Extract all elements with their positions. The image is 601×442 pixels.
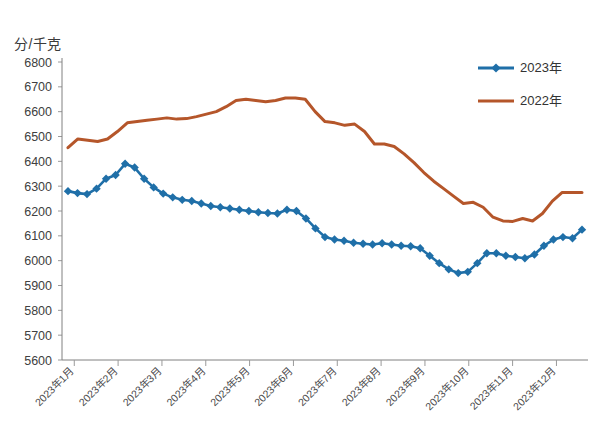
data-point-marker (207, 202, 215, 210)
x-tick-label: 2023年6月 (252, 365, 295, 408)
y-tick-label: 5600 (24, 354, 52, 368)
data-point-marker (64, 187, 72, 195)
x-tick-label: 2023年7月 (295, 365, 338, 408)
data-point-marker (559, 233, 567, 241)
chart-container: 分/千克 68006700660065006400630062006100600… (0, 0, 601, 442)
data-point-marker (178, 196, 186, 204)
y-tick-label: 5900 (24, 279, 52, 293)
chart-axes (62, 58, 588, 360)
legend-label: 2023年 (520, 60, 562, 75)
x-tick-label: 2023年9月 (383, 365, 426, 408)
data-point-marker (368, 240, 376, 248)
data-point-marker (73, 189, 81, 197)
y-tick-label: 6700 (24, 80, 52, 94)
data-point-marker (406, 242, 414, 250)
data-point-marker (330, 235, 338, 243)
x-tick-label: 2023年11月 (467, 365, 514, 412)
legend-item-2022年[interactable]: 2022年 (478, 93, 562, 108)
chart-legend: 2023年2022年 (478, 60, 562, 108)
data-point-marker (216, 203, 224, 211)
data-point-marker (502, 252, 510, 260)
x-tick-label: 2023年4月 (164, 365, 207, 408)
x-tick-label: 2023年5月 (208, 365, 251, 408)
data-point-marker (359, 240, 367, 248)
y-tick-label: 6000 (24, 254, 52, 268)
y-tick-label: 6300 (24, 180, 52, 194)
legend-item-2023年[interactable]: 2023年 (478, 60, 562, 75)
data-point-marker (492, 249, 500, 257)
y-tick-label: 6400 (24, 155, 52, 169)
data-point-marker (283, 206, 291, 214)
data-point-marker (511, 253, 519, 261)
x-tick-label: 2023年12月 (510, 365, 557, 412)
data-point-marker (197, 199, 205, 207)
series-2023 (64, 160, 586, 278)
data-point-marker (245, 207, 253, 215)
y-tick-label: 5800 (24, 304, 52, 318)
data-point-marker (226, 204, 234, 212)
x-tick-label: 2023年1月 (32, 365, 75, 408)
data-point-marker (521, 254, 529, 262)
data-point-marker (188, 197, 196, 205)
data-point-marker (273, 209, 281, 217)
line-chart: 6800670066006500640063006200610060005900… (0, 0, 601, 442)
x-tick-label: 2023年10月 (423, 365, 470, 412)
data-series-group (64, 98, 586, 277)
data-point-marker (169, 193, 177, 201)
legend-marker-diamond-icon (491, 63, 500, 72)
series-2022 (68, 98, 582, 221)
y-axis-tick-marks (58, 62, 62, 360)
y-tick-label: 5700 (24, 329, 52, 343)
x-axis-tick-marks (74, 360, 556, 366)
y-axis-tick-labels: 6800670066006500640063006200610060005900… (24, 56, 52, 368)
data-point-marker (378, 239, 386, 247)
y-tick-label: 6800 (24, 56, 52, 70)
data-point-marker (254, 208, 262, 216)
data-point-marker (454, 269, 462, 277)
y-tick-label: 6500 (24, 130, 52, 144)
data-point-marker (387, 240, 395, 248)
series-line (68, 98, 582, 221)
y-tick-label: 6600 (24, 105, 52, 119)
x-tick-label: 2023年8月 (339, 365, 382, 408)
data-point-marker (397, 242, 405, 250)
x-tick-label: 2023年2月 (76, 365, 119, 408)
data-point-marker (340, 237, 348, 245)
data-point-marker (235, 206, 243, 214)
data-point-marker (349, 239, 357, 247)
y-tick-label: 6200 (24, 205, 52, 219)
x-tick-label: 2023年3月 (120, 365, 163, 408)
x-axis-tick-labels: 2023年1月2023年2月2023年3月2023年4月2023年5月2023年… (32, 365, 557, 412)
y-tick-label: 6100 (24, 229, 52, 243)
data-point-marker (264, 209, 272, 217)
legend-label: 2022年 (520, 93, 562, 108)
